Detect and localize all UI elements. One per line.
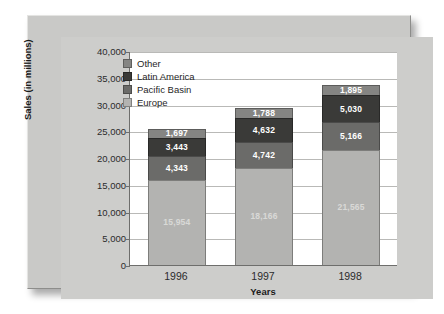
y-axis-tick-label: 30,000	[68, 101, 126, 111]
bar-segment-value-label: 4,742	[253, 151, 275, 160]
y-axis-tick-mark	[126, 213, 130, 214]
bar-segment-value-label: 3,443	[166, 143, 188, 152]
bar-segment-value-label: 5,030	[340, 105, 362, 114]
bar-segment-value-label: 21,565	[337, 203, 364, 212]
legend-item-label: Other	[137, 58, 161, 69]
bar-segment-value-label: 15,954	[163, 218, 190, 227]
bar-segment-pacific-basin[interactable]: 4,742	[235, 142, 293, 167]
y-axis-tick-label: 0	[68, 261, 126, 271]
x-axis-tick-label: 1997	[233, 270, 293, 282]
bar-segment-other[interactable]: 1,788	[235, 108, 293, 118]
bar-segment-value-label: 1,895	[340, 86, 362, 95]
bar-segment-value-label: 1,788	[253, 109, 275, 118]
legend-item-other[interactable]: Other	[123, 57, 218, 69]
legend-item-label: Europe	[137, 97, 168, 108]
y-axis-tick-mark	[126, 239, 130, 240]
y-axis-tick-label: 25,000	[68, 127, 126, 137]
legend-swatch-icon	[123, 98, 132, 107]
y-axis-tick-label: 15,000	[68, 181, 126, 191]
y-axis-tick-label: 5,000	[68, 234, 126, 244]
legend-swatch-icon	[123, 72, 132, 81]
legend-item-pacific-basin[interactable]: Pacific Basin	[123, 83, 218, 95]
bar-segment-latin-america[interactable]: 4,632	[235, 118, 293, 143]
y-axis-tick-label: 10,000	[68, 208, 126, 218]
legend-item-label: Latin America	[137, 71, 195, 82]
bar-1998[interactable]: 1,8955,0305,16621,565	[322, 85, 380, 265]
x-axis-title: Years	[129, 286, 397, 297]
x-axis-tick-label: 1996	[146, 270, 206, 282]
y-axis-tick-label: 35,000	[68, 74, 126, 84]
bar-segment-pacific-basin[interactable]: 5,166	[322, 122, 380, 150]
y-axis-tick-label: 20,000	[68, 154, 126, 164]
y-axis-labels: 05,00010,00015,00020,00025,00030,00035,0…	[66, 46, 126, 272]
legend-item-europe[interactable]: Europe	[123, 96, 218, 108]
x-axis-labels: 199619971998	[129, 270, 397, 286]
bar-segment-latin-america[interactable]: 3,443	[148, 138, 206, 156]
y-axis-tick-mark	[126, 266, 130, 267]
chart-legend: OtherLatin AmericaPacific BasinEurope	[123, 57, 218, 109]
legend-swatch-icon	[123, 59, 132, 68]
bar-segment-europe[interactable]: 18,166	[235, 168, 293, 265]
bar-1996[interactable]: 1,6973,4434,34315,954	[148, 129, 206, 265]
bar-segment-europe[interactable]: 15,954	[148, 180, 206, 265]
y-axis-tick-mark	[126, 186, 130, 187]
legend-swatch-icon	[123, 85, 132, 94]
bar-segment-latin-america[interactable]: 5,030	[322, 95, 380, 122]
bar-segment-value-label: 18,166	[250, 212, 277, 221]
bar-segment-europe[interactable]: 21,565	[322, 150, 380, 265]
bar-segment-other[interactable]: 1,697	[148, 129, 206, 138]
x-axis-tick-label: 1998	[320, 270, 380, 282]
y-axis-tick-mark	[126, 159, 130, 160]
legend-item-latin-america[interactable]: Latin America	[123, 70, 218, 82]
chart-screenshot: 05,00010,00015,00020,00025,00030,00035,0…	[0, 0, 444, 314]
bar-segment-other[interactable]: 1,895	[322, 85, 380, 95]
y-axis-tick-label: 40,000	[68, 47, 126, 57]
chart-frame: 05,00010,00015,00020,00025,00030,00035,0…	[27, 15, 411, 289]
bar-1997[interactable]: 1,7884,6324,74218,166	[235, 108, 293, 265]
y-axis-tick-mark	[126, 52, 130, 53]
bar-segment-value-label: 4,632	[253, 126, 275, 135]
bar-segment-value-label: 5,166	[340, 132, 362, 141]
gridline	[130, 52, 397, 53]
y-axis-title: Sales (in millions)	[22, 39, 33, 120]
bar-segment-value-label: 4,343	[166, 164, 188, 173]
legend-item-label: Pacific Basin	[137, 84, 191, 95]
bar-segment-pacific-basin[interactable]: 4,343	[148, 156, 206, 179]
y-axis-tick-mark	[126, 132, 130, 133]
